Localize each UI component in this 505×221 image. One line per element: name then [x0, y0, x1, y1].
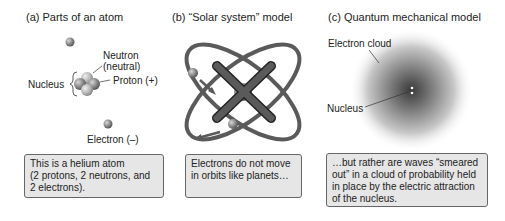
electron-icon — [104, 120, 113, 129]
electron-icon — [66, 38, 75, 47]
caption-b: Electrons do not move in orbits like pla… — [185, 154, 302, 198]
electron-label: Electron (–) — [87, 134, 139, 145]
proton-label: Proton (+) — [113, 75, 158, 86]
electron-cloud-label: Electron cloud — [328, 38, 391, 49]
electron-icon — [228, 119, 238, 129]
cross-out-icon — [217, 66, 271, 118]
nucleus-label: Nucleus — [28, 79, 64, 90]
caption-c: …but rather are waves “smeared out” in a… — [326, 153, 488, 207]
nucleus-icon — [74, 72, 100, 96]
panel-c-title: (c) Quantum mechanical model — [328, 11, 481, 23]
panel-b-title: (b) “Solar system” model — [172, 11, 292, 23]
neutron-label: Neutron — [103, 50, 139, 61]
nucleus-label-c: Nucleus — [327, 103, 363, 114]
panel-a-title: (a) Parts of an atom — [26, 11, 123, 23]
electron-icon — [188, 68, 198, 78]
neutron-sub-label: (neutral) — [103, 61, 140, 72]
caption-a: This is a helium atom (2 protons, 2 neut… — [24, 154, 164, 198]
